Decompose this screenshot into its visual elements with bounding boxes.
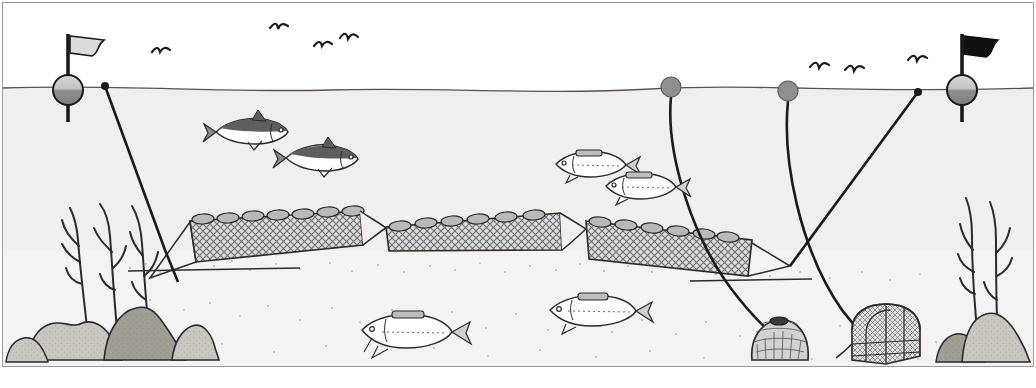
mid-buoy-one[interactable] [661, 77, 681, 97]
fish-dorsal-fin [392, 311, 424, 318]
mid-buoy-two[interactable] [778, 81, 798, 101]
fish-eye [370, 327, 375, 332]
buoy-sphere [947, 75, 977, 105]
creel-pot-entrance [770, 317, 788, 325]
fish-eye [612, 183, 616, 187]
diagram-canvas: Seabed fishing gear diagram Cross-sectio… [0, 0, 1036, 388]
fish-dorsal-fin [578, 293, 608, 300]
fish-eye [349, 155, 353, 159]
fish-dorsal-fin [626, 172, 652, 178]
buoy-sphere [53, 75, 83, 105]
fish-eye [279, 128, 283, 132]
fish-dorsal-fin [576, 150, 602, 156]
fish-eye [557, 307, 562, 312]
fishing-gear-scene [0, 0, 1036, 388]
fish-eye [562, 161, 566, 165]
